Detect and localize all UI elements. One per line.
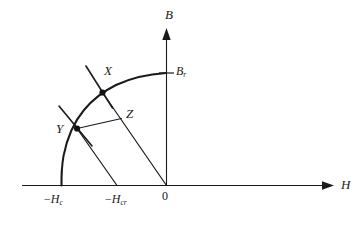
point-label-X: X — [104, 64, 112, 77]
b-axis-arrowhead — [162, 28, 170, 40]
subscript-hc: c — [59, 198, 62, 207]
point-dot-Y — [74, 125, 80, 131]
minus-sign-hcr: − — [105, 192, 112, 206]
point-label-Br: Br — [176, 65, 186, 79]
tick-label-minus-hc: −Hc — [44, 193, 63, 207]
line-Y-to-Hcr — [77, 129, 117, 186]
h-axis-label: H — [341, 178, 350, 191]
segment-Y-to-Z — [77, 119, 122, 129]
minus-sign-hc: − — [44, 192, 51, 206]
point-dot-X — [99, 89, 105, 95]
b-axis-label: B — [165, 8, 173, 21]
subscript-br: r — [183, 70, 186, 79]
subscript-hcr: cr — [120, 198, 126, 207]
point-label-Y: Y — [56, 122, 63, 135]
h-axis-arrowhead — [322, 181, 334, 189]
point-label-Z: Z — [126, 107, 133, 120]
origin-label: 0 — [162, 190, 168, 202]
tick-label-minus-hcr: −Hcr — [105, 193, 127, 207]
figure-canvas: B H 0 −Hc −Hcr X Y Z Br — [0, 0, 362, 226]
